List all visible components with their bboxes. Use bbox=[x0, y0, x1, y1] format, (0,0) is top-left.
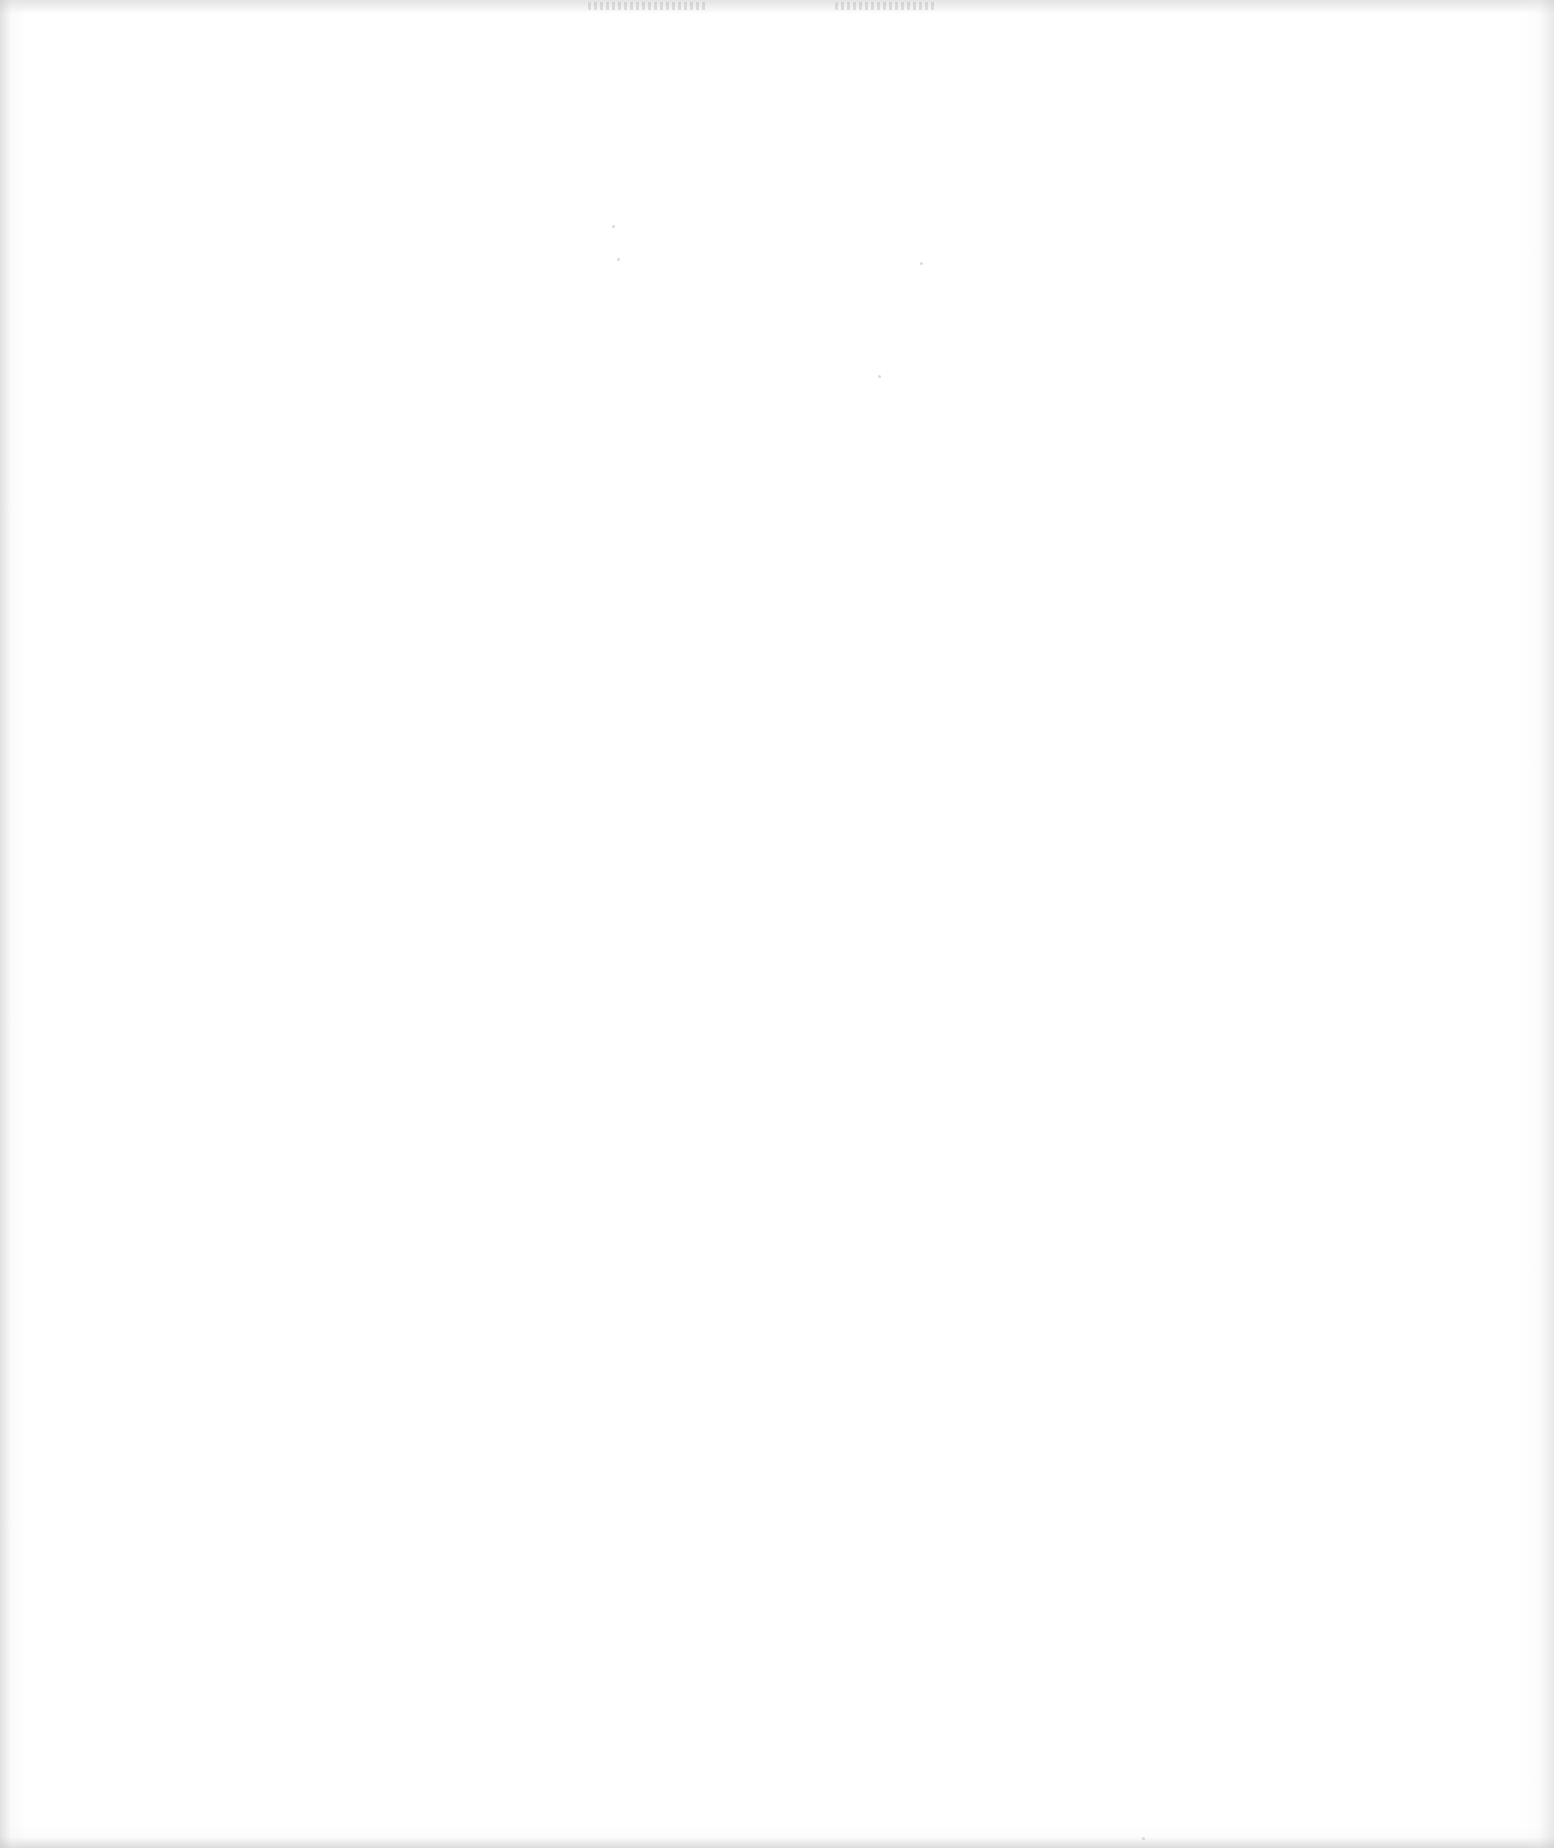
show-through-mark bbox=[835, 2, 935, 10]
scan-edge-top bbox=[0, 0, 1554, 14]
show-through-mark bbox=[588, 2, 708, 10]
scan-speck bbox=[920, 262, 923, 265]
scan-speck bbox=[617, 258, 620, 261]
scan-edge-left bbox=[0, 0, 28, 1848]
scan-speck bbox=[1142, 1837, 1145, 1840]
scan-edge-right bbox=[1520, 0, 1554, 1848]
scan-edge-bottom bbox=[0, 1826, 1554, 1848]
scan-speck bbox=[612, 225, 615, 228]
blank-page bbox=[0, 0, 1554, 1848]
scan-speck bbox=[878, 375, 881, 378]
